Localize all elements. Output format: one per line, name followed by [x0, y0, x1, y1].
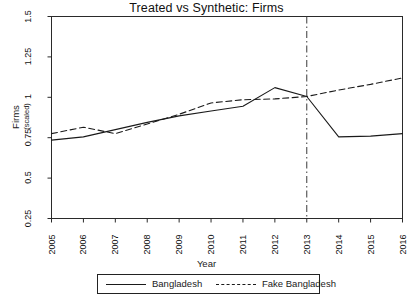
chart-title: Treated vs Synthetic: Firms	[0, 0, 413, 16]
y-axis-ticks	[48, 17, 52, 219]
x-tick-label: 2011	[238, 227, 247, 261]
y-tick-label: 0.75	[23, 120, 32, 154]
x-axis-ticks	[52, 219, 403, 223]
legend-item-bangladesh: Bangladesh	[106, 275, 202, 293]
x-tick-label: 2016	[398, 227, 407, 261]
y-axis-title: Firms	[11, 95, 21, 139]
y-tick-label: 0.5	[23, 161, 32, 195]
x-tick-label: 2010	[207, 227, 216, 261]
x-tick-label: 2013	[302, 227, 311, 261]
y-tick-label: 1.25	[23, 39, 32, 73]
series-layer	[52, 78, 403, 140]
x-tick-label: 2006	[79, 227, 88, 261]
x-axis-title: Year	[0, 258, 413, 269]
x-tick-label: 2007	[111, 227, 120, 261]
x-tick-label: 2014	[334, 227, 343, 261]
series-line-fake-bangladesh	[52, 78, 403, 134]
x-tick-label: 2015	[366, 227, 375, 261]
x-tick-label: 2008	[143, 227, 152, 261]
x-tick-label: 2005	[47, 227, 56, 261]
plot-frame	[52, 17, 403, 219]
series-line-bangladesh	[52, 88, 403, 141]
legend-label-bangladesh: Bangladesh	[152, 279, 202, 289]
y-tick-label: 0.25	[23, 201, 32, 235]
x-tick-label: 2012	[270, 227, 279, 261]
legend-label-fake-bangladesh: Fake Bangladesh	[262, 279, 336, 289]
y-tick-label: 1.5	[23, 0, 32, 33]
y-tick-label: 1	[23, 80, 32, 114]
chart-figure: Treated vs Synthetic: Firms Firms (scale…	[0, 0, 413, 300]
chart-legend: Bangladesh Fake Bangladesh	[97, 274, 320, 294]
x-tick-label: 2009	[175, 227, 184, 261]
legend-item-fake-bangladesh: Fake Bangladesh	[216, 275, 336, 293]
legend-line-dashed-icon	[216, 279, 256, 289]
legend-line-solid-icon	[106, 279, 146, 289]
